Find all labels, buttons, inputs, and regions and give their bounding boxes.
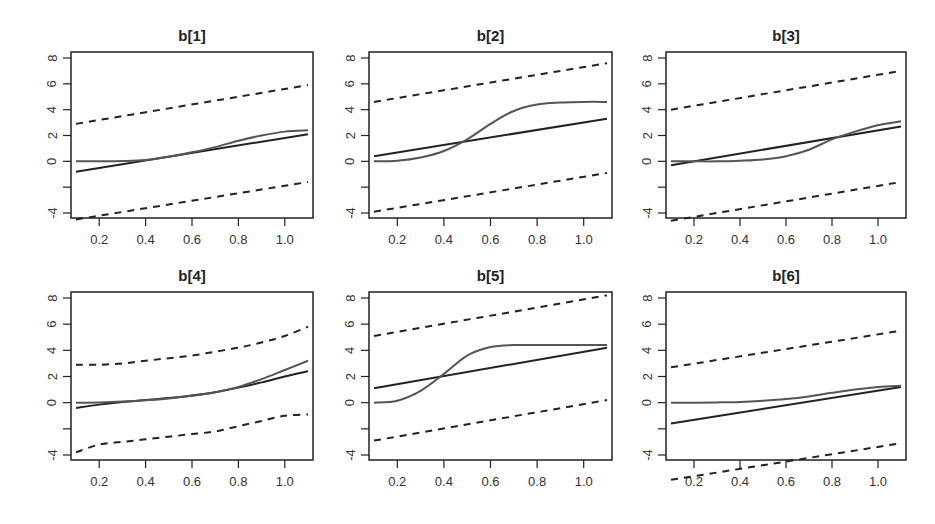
x-tick-label: 0.2	[90, 474, 108, 489]
y-tick-label: 2	[343, 373, 358, 380]
x-tick-label: 0.2	[90, 232, 108, 247]
y-tick-label: 8	[45, 54, 60, 61]
upper-band-line	[374, 295, 607, 336]
plot-frame	[666, 292, 906, 460]
panel-5: b[5]-4024680.20.40.60.81.0	[343, 267, 613, 489]
y-tick-label: 8	[640, 54, 655, 61]
x-tick-label: 0.2	[388, 232, 406, 247]
lower-band-line	[76, 182, 308, 219]
panel-title: b[6]	[772, 267, 800, 284]
panel-title: b[5]	[477, 267, 505, 284]
y-tick-label: -4	[343, 449, 358, 461]
true-curve-line	[671, 386, 901, 403]
y-axis: -402468	[343, 294, 370, 460]
x-tick-label: 0.2	[685, 232, 703, 247]
series-group	[76, 85, 308, 219]
y-tick-label: 0	[343, 399, 358, 406]
x-tick-label: 0.2	[388, 474, 406, 489]
series-group	[671, 331, 901, 480]
x-tick-label: 1.0	[575, 232, 593, 247]
x-tick-label: 0.6	[183, 474, 201, 489]
upper-band-line	[76, 327, 308, 365]
x-tick-label: 0.4	[435, 232, 453, 247]
x-tick-label: 0.4	[435, 474, 453, 489]
y-tick-label: 6	[640, 80, 655, 87]
y-tick-label: 6	[640, 321, 655, 328]
panel-title: b[4]	[178, 267, 206, 284]
y-tick-label: 6	[343, 80, 358, 87]
y-tick-label: 8	[343, 54, 358, 61]
y-tick-label: 4	[640, 347, 655, 354]
y-tick-label: 0	[640, 399, 655, 406]
x-axis: 0.20.40.60.81.0	[388, 460, 592, 489]
x-tick-label: 0.6	[481, 232, 499, 247]
y-axis: -402468	[45, 54, 72, 218]
y-tick-label: -4	[640, 207, 655, 219]
fit-line	[374, 348, 607, 389]
panel-title: b[3]	[772, 27, 800, 44]
series-group	[76, 327, 308, 453]
true-curve-line	[76, 361, 308, 403]
x-tick-label: 0.8	[528, 474, 546, 489]
upper-band-line	[374, 63, 607, 102]
series-group	[671, 71, 901, 221]
x-tick-label: 0.4	[137, 232, 155, 247]
fit-line	[671, 126, 901, 165]
x-tick-label: 1.0	[869, 232, 887, 247]
x-axis: 0.20.40.60.81.0	[388, 218, 592, 247]
lower-band-line	[671, 182, 901, 221]
y-tick-label: -4	[45, 449, 60, 461]
true-curve-line	[671, 121, 901, 161]
x-tick-label: 0.6	[777, 474, 795, 489]
y-tick-label: 4	[343, 106, 358, 113]
y-axis: -402468	[343, 54, 370, 218]
x-tick-label: 1.0	[575, 474, 593, 489]
y-axis: -402468	[640, 54, 667, 218]
lower-band-line	[76, 414, 308, 452]
x-tick-label: 0.6	[481, 474, 499, 489]
panel-6: b[6]-4024680.20.40.60.81.0	[640, 267, 907, 489]
y-tick-label: -4	[640, 449, 655, 461]
y-tick-label: 6	[343, 321, 358, 328]
x-tick-label: 0.4	[731, 232, 749, 247]
y-tick-label: 4	[45, 106, 60, 113]
x-tick-label: 0.8	[823, 474, 841, 489]
y-tick-label: 8	[343, 294, 358, 301]
y-tick-label: 2	[45, 132, 60, 139]
panel-4: b[4]-4024680.20.40.60.81.0	[45, 267, 314, 489]
y-tick-label: 2	[640, 373, 655, 380]
upper-band-line	[671, 71, 901, 110]
lower-band-line	[374, 400, 607, 441]
y-tick-label: 6	[45, 321, 60, 328]
y-tick-label: 4	[640, 106, 655, 113]
x-tick-label: 0.8	[823, 232, 841, 247]
lower-band-line	[374, 173, 607, 212]
y-tick-label: 0	[343, 158, 358, 165]
panel-1: b[1]-4024680.20.40.60.81.0	[45, 27, 314, 247]
x-axis: 0.20.40.60.81.0	[90, 218, 294, 247]
true-curve-line	[76, 130, 308, 161]
x-axis: 0.20.40.60.81.0	[685, 460, 887, 489]
y-axis: -402468	[640, 294, 667, 460]
y-tick-label: 8	[640, 294, 655, 301]
y-tick-label: -4	[343, 207, 358, 219]
y-tick-label: 2	[45, 373, 60, 380]
y-tick-label: 0	[45, 158, 60, 165]
x-axis: 0.20.40.60.81.0	[90, 460, 294, 489]
y-tick-label: 0	[640, 158, 655, 165]
figure: b[1]-4024680.20.40.60.81.0b[2]-4024680.2…	[0, 0, 935, 524]
multi-panel-chart: b[1]-4024680.20.40.60.81.0b[2]-4024680.2…	[0, 0, 935, 524]
true-curve-line	[374, 102, 607, 161]
x-tick-label: 0.8	[229, 232, 247, 247]
x-tick-label: 0.8	[229, 474, 247, 489]
plot-frame	[71, 52, 313, 218]
y-tick-label: 4	[45, 347, 60, 354]
series-group	[374, 63, 607, 212]
series-group	[374, 295, 607, 440]
y-tick-label: 2	[640, 132, 655, 139]
x-tick-label: 0.4	[731, 474, 749, 489]
y-tick-label: 2	[343, 132, 358, 139]
x-tick-label: 0.6	[183, 232, 201, 247]
y-tick-label: 0	[45, 399, 60, 406]
x-tick-label: 0.4	[137, 474, 155, 489]
